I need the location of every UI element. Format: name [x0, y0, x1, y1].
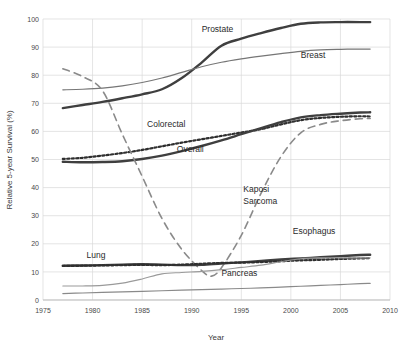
series-path-group — [63, 22, 370, 293]
y-tick-label: 70 — [31, 100, 39, 107]
series-label-colorectal: Colorectal — [147, 119, 185, 129]
x-tick-label: 1995 — [233, 307, 249, 314]
series-line-prostate — [63, 22, 370, 108]
x-axis-title: Year — [208, 333, 225, 342]
series-label-prostate: Prostate — [202, 24, 234, 34]
x-tick-label: 1985 — [134, 307, 150, 314]
y-tick-label: 20 — [31, 240, 39, 247]
chart-canvas: 1009080706050403020100 19751980198519901… — [0, 0, 412, 344]
x-tick-label-group: 19751980198519901995200020052010 — [35, 307, 398, 314]
y-tick-label: 30 — [31, 212, 39, 219]
y-tick-label: 60 — [31, 128, 39, 135]
series-label-overall: Overall — [177, 144, 204, 154]
x-tick-label: 2010 — [382, 307, 398, 314]
x-tick-label: 1990 — [184, 307, 200, 314]
series-label-kaposi-line1: Kaposi — [243, 184, 269, 194]
series-label-pancreas: Pancreas — [221, 268, 257, 278]
series-label-group: ProstateBreastColorectalOverallKaposiSar… — [87, 24, 336, 279]
x-tick-label: 1975 — [35, 307, 51, 314]
survival-trend-chart: 1009080706050403020100 19751980198519901… — [0, 0, 412, 344]
series-label-lung: Lung — [87, 250, 106, 260]
y-tick-label: 10 — [31, 269, 39, 276]
series-label-kaposi-line2: Sarcoma — [243, 196, 277, 206]
y-tick-label: 90 — [31, 44, 39, 51]
x-tick-label: 1980 — [85, 307, 101, 314]
series-label-breast: Breast — [301, 50, 326, 60]
y-tick-label: 0 — [35, 297, 39, 304]
y-tick-label: 80 — [31, 72, 39, 79]
y-tick-label: 40 — [31, 184, 39, 191]
y-tick-label: 50 — [31, 156, 39, 163]
y-tick-label-group: 1009080706050403020100 — [27, 16, 39, 304]
y-axis-title: Relative 5-year Survival (%) — [5, 110, 14, 209]
x-tick-label: 2000 — [283, 307, 299, 314]
series-label-esophagus: Esophagus — [293, 226, 336, 236]
y-tick-label: 100 — [27, 16, 39, 23]
x-tick-label: 2005 — [333, 307, 349, 314]
